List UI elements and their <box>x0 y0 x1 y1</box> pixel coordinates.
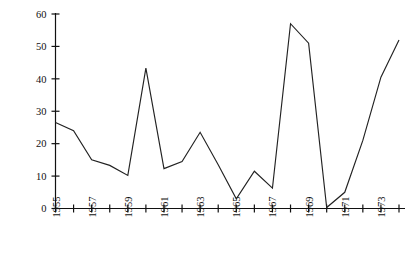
y-axis-tick-label: 0 <box>41 203 46 214</box>
x-axis-tick-label: 1955 <box>51 197 62 218</box>
x-axis-tick-label: 1971 <box>340 197 351 218</box>
chart-container: Percentage of strikers 0102030405060 195… <box>0 0 413 254</box>
y-axis-tick-label: 20 <box>36 138 47 149</box>
data-series-line <box>56 24 400 208</box>
x-axis-tick-label: 1969 <box>304 197 315 218</box>
x-axis-tick-label: 1973 <box>376 197 387 218</box>
y-axis-tick-label: 40 <box>36 74 47 85</box>
x-axis-tick-label: 1957 <box>87 197 98 218</box>
x-axis-tick-label: 1959 <box>123 197 134 218</box>
y-axis-tick-label: 10 <box>36 171 47 182</box>
y-axis-tick-label: 30 <box>36 106 47 117</box>
x-axis-tick-label: 1967 <box>267 197 278 218</box>
y-axis: 0102030405060 <box>36 9 60 215</box>
x-axis-tick-label: 1961 <box>159 197 170 218</box>
y-axis-tick-label: 50 <box>36 41 47 52</box>
x-axis: 1955195719591961196319651967196919711973 <box>51 196 406 217</box>
x-axis-tick-label: 1965 <box>231 196 242 217</box>
chart-plot-area: 0102030405060 19551957195919611963196519… <box>0 0 413 254</box>
y-axis-tick-label: 60 <box>36 9 47 20</box>
x-axis-tick-label: 1963 <box>195 197 206 218</box>
y-axis-tick-labels: 0102030405060 <box>36 9 47 215</box>
